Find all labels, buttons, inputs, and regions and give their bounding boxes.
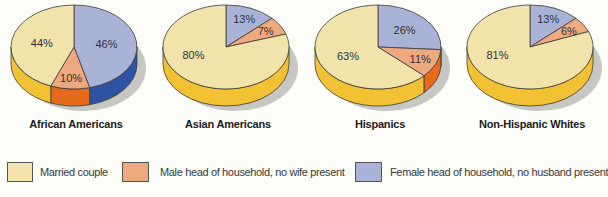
svg-text:80%: 80% bbox=[182, 49, 204, 61]
pie-title-hispanics: Hispanics bbox=[355, 118, 405, 130]
svg-text:13%: 13% bbox=[233, 13, 255, 25]
pie-title-non-hispanic-whites: Non-Hispanic Whites bbox=[479, 118, 585, 130]
svg-text:63%: 63% bbox=[337, 50, 359, 62]
pie-chart-african-americans: 46%10%44% African Americans bbox=[0, 0, 152, 130]
legend-label-female-head: Female head of household, no husband pre… bbox=[390, 166, 608, 178]
svg-text:81%: 81% bbox=[486, 49, 508, 61]
pie-chart-asian-americans: 13%7%80% Asian Americans bbox=[152, 0, 304, 130]
legend-label-male-head: Male head of household, no wife present bbox=[160, 166, 345, 178]
pie-title-african-americans: African Americans bbox=[29, 118, 122, 130]
pie-title-asian-americans: Asian Americans bbox=[185, 118, 271, 130]
svg-text:10%: 10% bbox=[60, 72, 82, 84]
svg-text:11%: 11% bbox=[410, 53, 431, 65]
svg-text:44%: 44% bbox=[31, 37, 53, 49]
svg-text:13%: 13% bbox=[537, 13, 559, 25]
legend-swatch-male-head bbox=[122, 162, 149, 182]
legend: Married couple Male head of household, n… bbox=[0, 161, 608, 197]
pie-svg-2: 26%11%63% bbox=[304, 0, 456, 116]
pie-chart-hispanics: 26%11%63% Hispanics bbox=[304, 0, 456, 130]
svg-text:7%: 7% bbox=[258, 25, 274, 37]
legend-swatch-female-head bbox=[355, 162, 382, 182]
legend-swatch-married bbox=[7, 162, 33, 182]
pie-chart-non-hispanic-whites: 13%6%81% Non-Hispanic Whites bbox=[456, 0, 608, 130]
pie-charts-row: 46%10%44% African Americans 13%7%80% Asi… bbox=[0, 0, 608, 130]
pie-svg-0: 46%10%44% bbox=[0, 0, 152, 116]
svg-text:6%: 6% bbox=[561, 25, 577, 37]
figure: 46%10%44% African Americans 13%7%80% Asi… bbox=[0, 0, 608, 197]
legend-label-married: Married couple bbox=[40, 166, 108, 178]
svg-text:46%: 46% bbox=[95, 38, 117, 50]
svg-text:26%: 26% bbox=[394, 24, 416, 36]
pie-svg-3: 13%6%81% bbox=[456, 0, 608, 116]
pie-svg-1: 13%7%80% bbox=[152, 0, 304, 116]
